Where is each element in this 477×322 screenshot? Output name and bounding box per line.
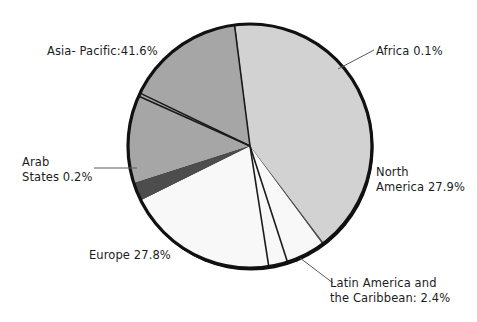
- leader-line-africa: [338, 50, 374, 69]
- slice-label-arab-states-line2: States 0.2%: [22, 170, 92, 185]
- pie-chart-figure: Asia- Pacific:41.6% Africa 0.1% North Am…: [0, 0, 477, 322]
- slice-label-arab-states-line1: Arab: [22, 155, 92, 170]
- slice-label-north-america: North America 27.9%: [376, 165, 465, 194]
- slice-label-latin-america-line2: the Caribbean: 2.4%: [330, 291, 450, 306]
- slice-label-latin-america-line1: Latin America and: [330, 276, 450, 291]
- slice-label-europe: Europe 27.8%: [89, 248, 171, 262]
- leader-line-latin-america: [300, 258, 333, 283]
- slice-label-arab-states: Arab States 0.2%: [22, 155, 92, 184]
- slice-label-north-america-line1: North: [376, 165, 465, 180]
- slice-label-latin-america-caribbean: Latin America and the Caribbean: 2.4%: [330, 276, 450, 305]
- slice-label-asia-pacific: Asia- Pacific:41.6%: [47, 44, 158, 58]
- slice-label-north-america-line2: America 27.9%: [376, 180, 465, 195]
- slice-label-africa: Africa 0.1%: [376, 44, 443, 58]
